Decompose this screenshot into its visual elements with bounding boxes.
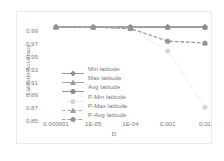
- x-axis-tick: 0.01: [199, 120, 211, 127]
- legend-swatch-icon: [61, 92, 85, 101]
- legend-item-label: P-Max latitude: [88, 102, 128, 109]
- legend-item[interactable]: Max latitude: [61, 73, 145, 82]
- legend-item[interactable]: Avg latitude: [61, 82, 145, 91]
- data-point-marker: [203, 105, 208, 110]
- x-axis-tick: 0.001: [160, 120, 175, 127]
- data-point-marker: [54, 24, 59, 29]
- legend-item[interactable]: P-Max latitude: [61, 101, 145, 110]
- data-point-marker: [203, 25, 208, 30]
- legend-item[interactable]: P-Avg latitude: [61, 110, 145, 119]
- legend-item-label: P-Avg latitude: [88, 111, 126, 118]
- legend-swatch-icon: [61, 101, 85, 110]
- legend-item[interactable]: Min latitude: [61, 64, 145, 73]
- data-point-marker: [165, 39, 170, 44]
- chart-container: 0.990.970.950.930.910.890.870.85 0.00000…: [0, 0, 224, 161]
- y-axis-tick: 0.99: [14, 27, 38, 34]
- legend-swatch-icon: [61, 64, 85, 73]
- legend-swatch-icon: [61, 110, 85, 119]
- legend-item[interactable]: P-Min latitude: [61, 92, 145, 101]
- legend-item-label: Min latitude: [88, 65, 120, 72]
- legend-item-label: Avg latitude: [88, 83, 120, 90]
- y-axis-tick: 0.87: [14, 104, 38, 111]
- data-point-marker: [128, 26, 133, 31]
- legend-swatch-icon: [61, 73, 85, 82]
- x-axis-title: D: [16, 130, 212, 137]
- data-point-marker: [71, 117, 76, 122]
- y-axis-title: Latitude Accuracy: [22, 36, 33, 104]
- chart-legend: Min latitudeMax latitudeAvg latitudeP-Mi…: [61, 64, 145, 119]
- legend-item-label: Max latitude: [88, 74, 121, 81]
- legend-item-label: P-Min latitude: [88, 93, 126, 100]
- data-point-marker: [203, 41, 208, 46]
- x-axis-tick: 1E-04: [122, 120, 139, 127]
- data-point-marker: [165, 25, 170, 30]
- data-point-marker: [91, 25, 96, 30]
- legend-swatch-icon: [61, 82, 85, 91]
- data-point-marker: [165, 48, 170, 53]
- x-axis-tick: 1E-05: [85, 120, 102, 127]
